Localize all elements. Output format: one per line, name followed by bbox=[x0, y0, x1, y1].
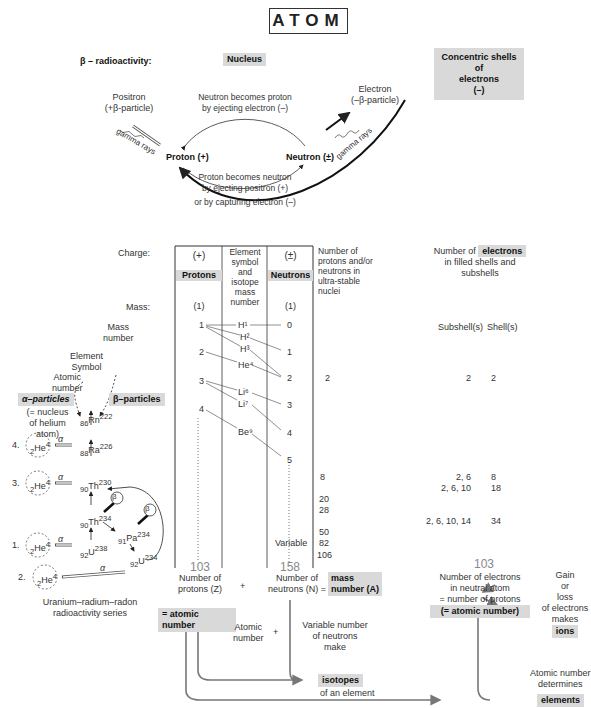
isotope-li7: Li⁷ bbox=[238, 399, 248, 409]
helium-nucleus-4: 2He4 bbox=[30, 440, 50, 456]
stable-50: 50 bbox=[319, 527, 329, 537]
mass-label: Mass: bbox=[100, 302, 150, 313]
isotope-h1: H¹ bbox=[238, 320, 248, 330]
arc-bottom-text: Proton becomes neutronby ejecting positr… bbox=[190, 172, 300, 208]
stable-20: 20 bbox=[319, 494, 329, 504]
shell-column-header: Shell(s) bbox=[487, 322, 518, 333]
neutral-atom-text: Number of electronsin neutral atom= numb… bbox=[430, 572, 530, 618]
nuclide-ra226: 88Ra226 bbox=[80, 442, 112, 458]
shell-row-4: 34 bbox=[491, 516, 501, 526]
protons-header: Protons bbox=[176, 270, 222, 281]
neutron-5: 5 bbox=[287, 455, 292, 465]
stable-2: 2 bbox=[325, 373, 330, 383]
nuclide-u234: 92U234 bbox=[130, 553, 157, 569]
legend-element-symbol: ElementSymbol bbox=[70, 351, 103, 373]
subshell-column-header: Subshell(s) bbox=[438, 322, 483, 333]
helium-nucleus-3: 2He4 bbox=[30, 478, 50, 494]
neutron-2: 2 bbox=[287, 373, 292, 383]
legend-mass-number: Massnumber bbox=[103, 322, 134, 344]
plus-sign: + bbox=[240, 581, 245, 592]
nuclide-th234: 90Th234 bbox=[80, 514, 111, 530]
proton-1: 1 bbox=[199, 320, 204, 330]
helium-label-2: 2. bbox=[18, 572, 26, 582]
neutrons-count-label: Number ofneutrons (N) = bbox=[268, 573, 326, 595]
shell-row-3: 18 bbox=[491, 483, 501, 493]
positron-label: Positron(+β-particle) bbox=[94, 92, 164, 114]
neutron-3: 3 bbox=[287, 400, 292, 410]
charge-label: Charge: bbox=[100, 248, 150, 259]
stable-header: Number ofprotons and/orneutrons inultra-… bbox=[318, 246, 373, 296]
neutrons-mass: (1) bbox=[268, 301, 313, 312]
arc-top-text: Neutron becomes protonby ejecting electr… bbox=[195, 92, 295, 114]
plus-sign-2: + bbox=[273, 627, 278, 638]
page-title: ATOM bbox=[269, 8, 348, 34]
protons-max: 103 bbox=[190, 560, 210, 574]
isotope-be9: Be⁹ bbox=[238, 427, 253, 437]
electron-shells-box: Concentric shellsofelectrons(–) bbox=[434, 48, 524, 100]
nuclide-rn222: 86Rn222 bbox=[80, 412, 112, 428]
neutrons-max: 158 bbox=[280, 560, 300, 574]
nuclide-pa234: 91Pa234 bbox=[118, 530, 150, 546]
variable-neutrons-text: Variable numberof neutronsmake bbox=[300, 620, 370, 653]
elements-box: elements bbox=[537, 694, 584, 707]
electrons-max: 103 bbox=[474, 557, 494, 571]
isotope-h3: H³ bbox=[240, 344, 250, 354]
nuclide-u238: 92U238 bbox=[80, 544, 107, 560]
electrons-header: Number of electrons in filled shells and… bbox=[420, 246, 540, 279]
stable-82: 82 bbox=[319, 538, 329, 548]
stable-106: 106 bbox=[317, 550, 332, 560]
neutron-variable: Variable bbox=[275, 538, 307, 548]
atomic-number-box: = atomic number bbox=[158, 608, 236, 632]
atomic-number-small: Atomicnumber bbox=[233, 622, 264, 644]
proton-4: 4 bbox=[199, 404, 204, 414]
alpha-symbol-1: α bbox=[58, 534, 63, 544]
proton-3: 3 bbox=[199, 376, 204, 386]
mass-number-box: massnumber (A) bbox=[328, 572, 382, 596]
proton-2: 2 bbox=[199, 347, 204, 357]
beta-symbol-1: β bbox=[112, 492, 117, 501]
isotope-h2: H² bbox=[240, 332, 250, 342]
stable-8: 8 bbox=[320, 472, 325, 482]
neutron-0: 0 bbox=[287, 320, 292, 330]
subshell-row-2: 2, 6 bbox=[420, 472, 471, 482]
legend-atomic-number: Atomicnumber bbox=[52, 372, 83, 394]
helium-label-3: 3. bbox=[12, 478, 20, 488]
proton-node: Proton (+) bbox=[166, 152, 209, 163]
helium-label-1: 1. bbox=[12, 540, 20, 550]
shell-row-2: 8 bbox=[491, 472, 496, 482]
element-header: Elementsymbolandisotopemassnumber bbox=[223, 247, 267, 307]
alpha-symbol-3: α bbox=[58, 472, 63, 482]
nucleus-label: Nucleus bbox=[223, 53, 266, 66]
alpha-particles-label: α–particles bbox=[18, 393, 74, 406]
subshell-row-3: 2, 6, 10 bbox=[420, 483, 471, 493]
helium-label-4: 4. bbox=[12, 440, 20, 450]
alpha-symbol-4: α bbox=[58, 434, 63, 444]
isotope-li6: Li⁶ bbox=[238, 387, 249, 397]
helium-nucleus-2: 2He4 bbox=[37, 572, 57, 588]
neutrons-charge: (±) bbox=[268, 250, 313, 261]
neutrons-header: Neutrons bbox=[268, 270, 313, 281]
of-element-text: of an element bbox=[320, 688, 375, 699]
determines-text: Atomic numberdetermines bbox=[530, 668, 591, 690]
nuclide-th230: 90Th230 bbox=[80, 478, 111, 494]
alpha-symbol-2: α bbox=[100, 563, 105, 573]
neutron-1: 1 bbox=[287, 347, 292, 357]
ions-text: Gainorlossof electronsmakesions bbox=[540, 570, 590, 638]
neutron-node: Neutron (±) bbox=[286, 152, 334, 163]
alpha-note: (= nucleusof heliumatom) bbox=[20, 407, 75, 440]
beta-symbol-2: β bbox=[145, 504, 150, 513]
shell-row-1: 2 bbox=[491, 373, 496, 383]
isotopes-box: isotopes bbox=[318, 674, 363, 687]
stable-28: 28 bbox=[319, 505, 329, 515]
subshell-row-4: 2, 6, 10, 14 bbox=[420, 516, 471, 526]
neutron-4: 4 bbox=[287, 428, 292, 438]
beta-radioactivity-label: β – radioactivity: bbox=[80, 56, 152, 67]
beta-particles-label: β–particles bbox=[109, 393, 165, 406]
series-caption: Uranium–radium–radonradioactivity series bbox=[40, 597, 140, 619]
subshell-row-1: 2 bbox=[420, 373, 471, 383]
protons-count-label: Number ofprotons (Z) bbox=[175, 573, 225, 595]
protons-mass: (1) bbox=[176, 301, 222, 312]
protons-charge: (+) bbox=[176, 250, 222, 261]
helium-nucleus-1: 2He4 bbox=[30, 540, 50, 556]
electron-label: Electron(–β-particle) bbox=[340, 84, 410, 106]
